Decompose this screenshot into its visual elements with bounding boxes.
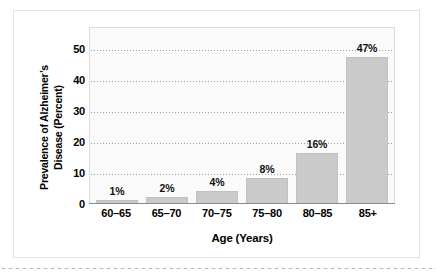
bar-slot-70-75: 4% xyxy=(192,28,242,203)
y-axis-tick-labels: 0 10 20 30 40 50 xyxy=(59,27,85,204)
bars-layer: 1% 2% 4% 8% 16% 47% xyxy=(90,28,394,203)
bar-70-75[interactable] xyxy=(196,191,238,203)
x-tick-70-75: 70–75 xyxy=(192,207,242,225)
bar-value-85-plus: 47% xyxy=(342,42,392,54)
x-tick-75-80: 75–80 xyxy=(242,207,292,225)
bar-85-plus[interactable] xyxy=(346,57,388,203)
bar-value-80-85: 16% xyxy=(292,138,342,150)
bar-75-80[interactable] xyxy=(246,178,288,203)
x-tick-80-85: 80–85 xyxy=(292,207,342,225)
y-tick-0: 0 xyxy=(59,198,85,210)
y-tick-30: 30 xyxy=(59,105,85,117)
bar-80-85[interactable] xyxy=(296,153,338,203)
bar-slot-80-85: 16% xyxy=(292,28,342,203)
y-tick-10: 10 xyxy=(59,167,85,179)
x-tick-60-65: 60–65 xyxy=(91,207,141,225)
bottom-dotted-rule xyxy=(0,267,436,270)
y-axis-title-line-1: Prevalence of Alzheimer’s xyxy=(38,38,52,218)
x-tick-85-plus: 85+ xyxy=(343,207,393,225)
bar-slot-65-70: 2% xyxy=(142,28,192,203)
x-axis-title: Age (Years) xyxy=(89,232,395,244)
x-axis-line xyxy=(89,203,395,204)
bar-slot-75-80: 8% xyxy=(242,28,292,203)
plot-area: 1% 2% 4% 8% 16% 47% xyxy=(89,27,395,204)
bar-value-75-80: 8% xyxy=(242,163,292,175)
bar-slot-85-plus: 47% xyxy=(342,28,392,203)
y-tick-40: 40 xyxy=(59,74,85,86)
bar-value-70-75: 4% xyxy=(192,176,242,188)
y-tick-20: 20 xyxy=(59,136,85,148)
x-axis-tick-labels: 60–65 65–70 70–75 75–80 80–85 85+ xyxy=(89,207,395,225)
bar-value-65-70: 2% xyxy=(142,182,192,194)
x-tick-65-70: 65–70 xyxy=(141,207,191,225)
bar-chart: Prevalence of Alzheimer’s Disease (Perce… xyxy=(13,10,420,258)
bar-value-60-65: 1% xyxy=(92,185,142,197)
y-tick-50: 50 xyxy=(59,43,85,55)
bar-slot-60-65: 1% xyxy=(92,28,142,203)
